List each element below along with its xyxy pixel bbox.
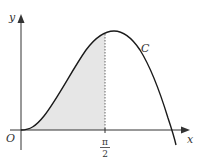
origin-label: O [6, 132, 15, 145]
curve-label: C [141, 42, 150, 55]
curve-diagram: y x O C π 2 [0, 0, 197, 168]
tick-label-denominator: 2 [102, 149, 108, 159]
tick-label-numerator: π [102, 137, 108, 147]
shaded-region [21, 34, 105, 130]
y-axis-label: y [8, 11, 16, 24]
x-axis-label: x [187, 133, 194, 146]
y-axis-arrow-icon [18, 14, 25, 23]
